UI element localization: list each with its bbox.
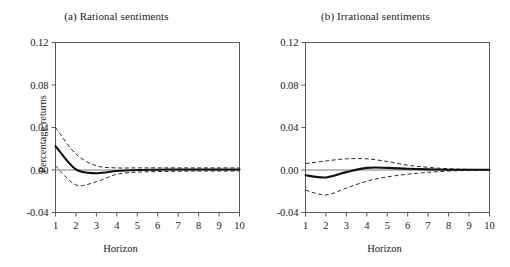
panel-a-y-tick-label: 0.00 xyxy=(30,165,48,176)
panel-b-y-ticks xyxy=(302,43,306,213)
impulse-response-figure: (a) Rational sentiments Percentage retur… xyxy=(0,0,510,267)
panel-b-x-tick-label: 6 xyxy=(405,220,410,231)
panel-b-axes xyxy=(306,43,490,213)
panel-b-y-tick-label: 0.12 xyxy=(280,37,298,48)
panel-a-x-tick-label: 8 xyxy=(196,220,201,231)
panel-b-x-ticks xyxy=(306,213,490,217)
panel-b-x-tick-labels: 12345678910 xyxy=(303,220,495,231)
panel-b-x-tick-label: 4 xyxy=(364,220,370,231)
panel-a-axes xyxy=(56,43,240,213)
panel-a-x-tick-label: 6 xyxy=(155,220,160,231)
panel-a-x-tick-label: 7 xyxy=(176,220,181,231)
panel-b-x-tick-label: 5 xyxy=(385,220,390,231)
panel-b-x-tick-label: 9 xyxy=(466,220,471,231)
panel-a-y-tick-label: 0.04 xyxy=(30,122,49,133)
panel-b-x-axis-label: Horizon xyxy=(259,243,510,254)
panel-a-x-tick-label: 4 xyxy=(114,220,120,231)
panel-a-y-tick-label: 0.12 xyxy=(30,37,48,48)
panel-a-x-ticks xyxy=(56,213,240,217)
panel-b-y-tick-label: -0.04 xyxy=(277,207,300,218)
panel-a-x-tick-label: 3 xyxy=(94,220,99,231)
panel-b-y-tick-label: 0.08 xyxy=(280,80,298,91)
panel-b-lower-band xyxy=(306,170,490,195)
panel-b-plot: 0.120.080.040.00-0.04 12345678910 xyxy=(255,0,510,267)
panel-a-x-axis-label: Horizon xyxy=(0,243,255,254)
panel-a-x-tick-label: 1 xyxy=(53,220,58,231)
panel-b-x-tick-label: 10 xyxy=(484,220,495,231)
panel-b-mean-line xyxy=(306,168,490,178)
panel-a-plot: 0.120.080.040.00-0.04 12345678910 xyxy=(0,0,255,267)
panel-b-x-tick-label: 3 xyxy=(344,220,349,231)
panel-a-x-tick-label: 2 xyxy=(73,220,78,231)
panel-a-x-tick-label: 10 xyxy=(234,220,245,231)
panel-a-x-tick-labels: 12345678910 xyxy=(53,220,245,231)
panel-b-x-tick-label: 7 xyxy=(426,220,431,231)
panel-a-x-tick-label: 9 xyxy=(216,220,221,231)
panel-irrational-sentiments: (b) Irrational sentiments Percentage ret… xyxy=(255,0,510,267)
panel-rational-sentiments: (a) Rational sentiments Percentage retur… xyxy=(0,0,255,267)
panel-b-x-tick-label: 1 xyxy=(303,220,308,231)
panel-a-y-tick-labels: 0.120.080.040.00-0.04 xyxy=(27,37,50,218)
panel-b-x-tick-label: 2 xyxy=(323,220,328,231)
panel-b-y-tick-label: 0.04 xyxy=(280,122,299,133)
panel-b-y-tick-label: 0.00 xyxy=(280,165,298,176)
panel-a-upper-band xyxy=(56,128,240,169)
panel-b-y-tick-labels: 0.120.080.040.00-0.04 xyxy=(277,37,300,218)
panel-a-y-tick-label: -0.04 xyxy=(27,207,50,218)
panel-a-x-tick-label: 5 xyxy=(135,220,140,231)
panel-b-x-tick-label: 8 xyxy=(446,220,451,231)
panel-a-y-tick-label: 0.08 xyxy=(30,80,48,91)
panel-a-y-ticks xyxy=(52,43,56,213)
